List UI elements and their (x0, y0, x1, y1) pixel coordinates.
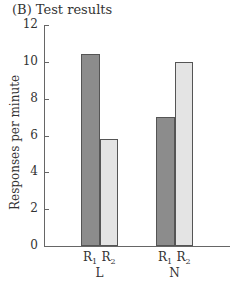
bar-label: R2 (100, 250, 118, 266)
y-tick-label: 10 (8, 54, 38, 68)
y-tick-label: 12 (8, 17, 38, 31)
y-tick (44, 62, 49, 63)
y-tick-label: 6 (8, 128, 38, 142)
y-tick (44, 136, 49, 137)
group-label: N (165, 266, 185, 280)
bar-l-r1 (81, 54, 100, 246)
bar-n-r1 (156, 117, 175, 246)
y-tick (44, 99, 49, 100)
chart-title: (B) Test results (12, 2, 112, 17)
y-tick-label: 8 (8, 91, 38, 105)
y-tick-label: 0 (8, 238, 38, 252)
y-tick (44, 25, 49, 26)
bar-label: R2 (175, 250, 193, 266)
bar-l-r2 (100, 139, 119, 246)
x-axis-line (44, 246, 230, 247)
y-tick-label: 2 (8, 201, 38, 215)
y-tick (44, 172, 49, 173)
y-tick (44, 246, 49, 247)
bar-label: R1 (156, 250, 174, 266)
y-tick-label: 4 (8, 164, 38, 178)
y-axis-label: Responses per minute (8, 100, 22, 210)
y-tick (44, 209, 49, 210)
bar-n-r2 (175, 62, 194, 246)
bar-label: R1 (81, 250, 99, 266)
group-label: L (90, 266, 110, 280)
